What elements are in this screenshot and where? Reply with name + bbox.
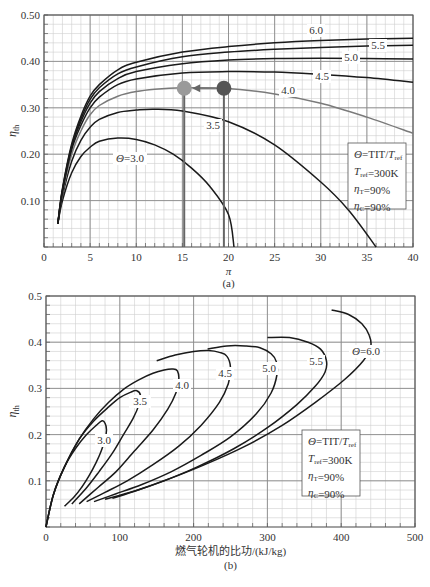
x-tick-label: 10 — [131, 251, 143, 263]
y-axis-label: ηth — [5, 405, 21, 417]
curve-label: 3.5 — [206, 119, 220, 131]
x-tick-label: 200 — [185, 531, 202, 543]
panel-caption: (b) — [224, 559, 237, 572]
y-tick-label: 0.1 — [28, 475, 42, 487]
curve-label: 4.5 — [315, 70, 329, 82]
x-tick-label: 5 — [87, 251, 93, 263]
curve-label: 4.0 — [281, 84, 295, 96]
y-tick-label: 0.3 — [28, 382, 42, 394]
curve-label: 3.0 — [97, 434, 111, 446]
chart-b: 01002003004005000.10.20.30.40.5ηth燃气轮机的比… — [5, 290, 424, 572]
y-tick-label: 0.4 — [28, 336, 42, 348]
x-tick-label: 0 — [41, 251, 47, 263]
curve-label: 3.5 — [133, 395, 147, 407]
curve-label: 6.0 — [309, 24, 323, 36]
curve-label: Θ=3.0 — [116, 152, 144, 164]
x-tick-label: 30 — [315, 251, 327, 263]
figure: 05101520253035400.100.200.300.400.50ηthπ… — [0, 0, 430, 587]
data-point-marker — [177, 81, 192, 96]
x-tick-label: 40 — [408, 251, 420, 263]
x-axis-label: 燃气轮机的比功/(kJ/kg) — [175, 544, 287, 558]
legend-line: ηT=90% — [308, 469, 344, 483]
y-axis-label: ηth — [5, 125, 21, 137]
x-tick-label: 15 — [177, 251, 189, 263]
y-tick-label: 0.50 — [21, 9, 41, 21]
y-tick-label: 0.40 — [21, 55, 41, 67]
curve-label: 4.0 — [175, 379, 189, 391]
curve-label: 5.5 — [371, 39, 385, 51]
legend-line: ηT=90% — [354, 182, 390, 196]
x-tick-label: 25 — [269, 251, 281, 263]
x-axis-label: π — [226, 265, 232, 277]
x-tick-label: 0 — [43, 531, 49, 543]
curve-3.5 — [46, 391, 141, 527]
y-tick-label: 0.10 — [21, 195, 41, 207]
x-tick-label: 100 — [112, 531, 129, 543]
y-tick-label: 0.2 — [28, 429, 42, 441]
curve-label: 5.0 — [262, 362, 276, 374]
x-tick-label: 300 — [259, 531, 276, 543]
data-point-marker — [216, 81, 231, 96]
curve-4.0 — [46, 369, 179, 527]
curve-label: 5.5 — [309, 355, 323, 367]
y-tick-label: 0.5 — [28, 290, 42, 302]
y-tick-label: 0.30 — [21, 102, 41, 114]
x-tick-label: 500 — [407, 531, 424, 543]
curve-5.0 — [94, 346, 277, 502]
curve-label: Θ=6.0 — [352, 345, 380, 357]
arrow-head-icon — [192, 84, 200, 92]
grid — [44, 15, 413, 247]
chart-a: 05101520253035400.100.200.300.400.50ηthπ… — [5, 9, 419, 290]
curve-label: 4.5 — [218, 367, 232, 379]
x-tick-label: 400 — [333, 531, 350, 543]
x-tick-label: 35 — [361, 251, 373, 263]
panel-caption: (a) — [222, 277, 235, 290]
curve-label: 5.0 — [344, 51, 358, 63]
y-tick-label: 0.20 — [21, 148, 41, 160]
x-tick-label: 20 — [223, 251, 235, 263]
